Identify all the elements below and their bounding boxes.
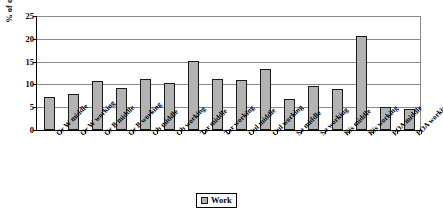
x-axis-tick-label: Kis middle [342, 131, 348, 137]
x-axis-tick-label: POA working [414, 131, 420, 137]
y-axis-tick-label: 0 [16, 126, 34, 134]
x-axis-tick-label: POA middle [390, 131, 396, 137]
x-axis-tick-label: Gr W middle [54, 131, 60, 137]
x-axis-tick-label: Ob middle [150, 131, 156, 137]
y-axis-tick-label: 25 [16, 12, 34, 20]
y-axis-title: % of observations [2, 0, 16, 48]
x-axis-tick-label: Gr B middle [102, 131, 108, 137]
y-axis-tick-label: 10 [16, 80, 34, 88]
square-marker-icon [201, 197, 208, 204]
legend-item-label: Work [211, 196, 232, 205]
x-axis-tick-label: Oul working [270, 131, 276, 137]
x-axis-tick-label: Kis working [366, 131, 372, 137]
x-axis-tick-label: Gr B working [126, 131, 132, 137]
y-axis-tick-label: 5 [16, 103, 34, 111]
x-axis-tick-label: Ob working [174, 131, 180, 137]
bar-chart: % of observations 0510152025 Gr W middle… [0, 0, 443, 215]
bar [44, 97, 55, 130]
y-axis-tick-labels: 0510152025 [16, 12, 34, 130]
x-axis-tick-label: Tar working [222, 131, 228, 137]
y-axis-tick-label: 15 [16, 58, 34, 66]
x-axis-tick-label: Tar middle [198, 131, 204, 137]
x-axis-tick-label: Su working [318, 131, 324, 137]
x-axis-tick-labels: Gr W middleGr W workingGr B middleGr B w… [36, 131, 436, 191]
y-axis-tick-label: 20 [16, 35, 34, 43]
y-axis-title-container: % of observations [2, 16, 16, 134]
x-axis-tick-label: Oul middle [246, 131, 252, 137]
x-axis-tick-label: Su middle [294, 131, 300, 137]
legend: Work [196, 193, 237, 208]
x-axis-tick-label: Gr W working [78, 131, 84, 137]
